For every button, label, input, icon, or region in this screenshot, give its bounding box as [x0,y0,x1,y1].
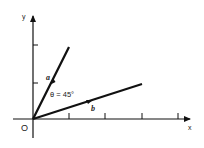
vector-b-label: b [91,104,95,113]
angle-label: θ = 45° [50,90,74,99]
vector-diagram: y x O a b θ = 45° [0,0,204,148]
y-axis-label: y [22,13,26,21]
vector-a-arrow-icon [50,78,56,85]
y-axis-ticks [33,45,38,83]
vector-a-label: a [46,73,50,82]
x-axis-ticks [69,113,178,119]
origin-label: O [21,123,28,133]
x-axis-label: x [188,124,192,131]
